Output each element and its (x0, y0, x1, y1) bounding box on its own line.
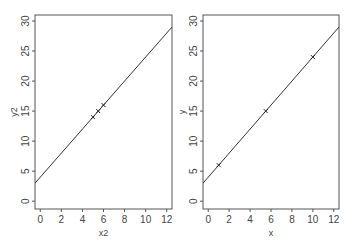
y-axis-label: y (177, 109, 187, 114)
x-tick-label: 10 (307, 214, 319, 225)
y-tick-label: 30 (20, 15, 31, 27)
x-tick-label: 2 (226, 214, 232, 225)
y-tick-label: 20 (188, 75, 199, 87)
data-point-marker (96, 109, 100, 113)
x-tick-label: 6 (268, 214, 274, 225)
y-axis: 051015202530 (20, 15, 35, 204)
regression-line (203, 27, 339, 183)
x-tick-label: 8 (289, 214, 295, 225)
y-tick-label: 25 (20, 45, 31, 57)
y-tick-label: 15 (20, 105, 31, 117)
data-point-marker (217, 163, 221, 167)
data-point-marker (102, 103, 106, 107)
plot-frame (35, 15, 172, 209)
y-axis-label: y2 (9, 107, 19, 117)
x-axis-label: x2 (99, 228, 109, 238)
y-tick-label: 15 (188, 105, 199, 117)
y-tick-label: 10 (188, 135, 199, 147)
y-tick-label: 25 (188, 45, 199, 57)
y-tick-label: 0 (188, 198, 199, 204)
x-tick-label: 0 (205, 214, 211, 225)
data-point-marker (264, 109, 268, 113)
y-axis: 051015202530 (188, 15, 203, 204)
x-axis: 024681012 (37, 209, 172, 225)
y-tick-label: 30 (188, 15, 199, 27)
data-point-marker (91, 115, 95, 119)
y-tick-label: 10 (20, 135, 31, 147)
x-tick-label: 12 (328, 214, 340, 225)
x-tick-label: 12 (161, 214, 173, 225)
plot-frame (203, 15, 339, 209)
y-tick-label: 20 (20, 75, 31, 87)
x-tick-label: 8 (122, 214, 128, 225)
x-axis-label: x (269, 228, 274, 238)
left-plot-panel: 024681012051015202530x2y2 (9, 15, 173, 238)
y-tick-label: 0 (20, 198, 31, 204)
x-tick-label: 2 (59, 214, 65, 225)
y-tick-label: 5 (188, 168, 199, 174)
x-tick-label: 4 (80, 214, 86, 225)
x-tick-label: 0 (37, 214, 43, 225)
x-tick-label: 6 (101, 214, 107, 225)
x-tick-label: 4 (247, 214, 253, 225)
x-axis: 024681012 (205, 209, 339, 225)
right-plot-panel: 024681012051015202530xy (177, 15, 340, 238)
data-point-marker (311, 55, 315, 59)
y-tick-label: 5 (20, 168, 31, 174)
x-tick-label: 10 (140, 214, 152, 225)
chart-canvas: 024681012051015202530x2y2 02468101205101… (0, 0, 353, 245)
